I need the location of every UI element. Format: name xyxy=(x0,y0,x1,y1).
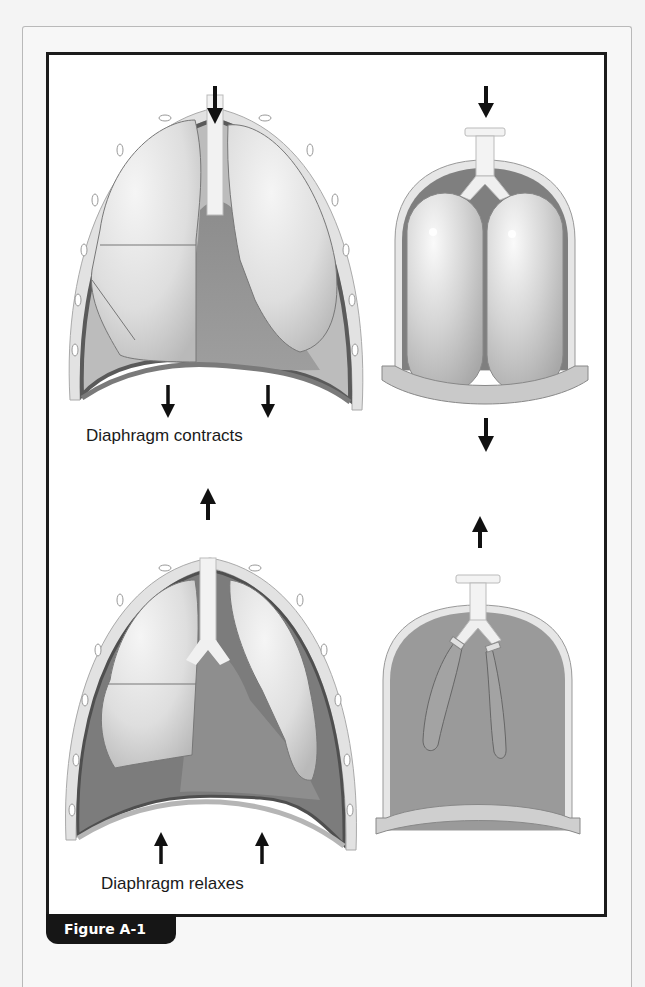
arrow-down-icon xyxy=(261,385,275,418)
arrow-down-icon xyxy=(478,86,494,118)
panel-label-contracts: Diaphragm contracts xyxy=(86,426,243,446)
bell-jar-exhale-illustration xyxy=(376,516,580,834)
thorax-inhale-illustration xyxy=(69,86,363,418)
figure-caption-tab: Figure A-1 xyxy=(46,914,176,944)
arrow-up-icon xyxy=(255,832,269,864)
arrow-up-icon xyxy=(200,488,216,520)
figure-caption: Figure A-1 xyxy=(64,921,146,937)
arrow-down-icon xyxy=(478,418,494,452)
panel-label-relaxes: Diaphragm relaxes xyxy=(101,874,244,894)
arrow-up-icon xyxy=(154,832,168,864)
arrow-down-icon xyxy=(161,385,175,418)
arrow-up-icon xyxy=(472,516,488,548)
thorax-exhale-illustration xyxy=(66,488,357,864)
bell-jar-inhale-illustration xyxy=(382,86,588,452)
